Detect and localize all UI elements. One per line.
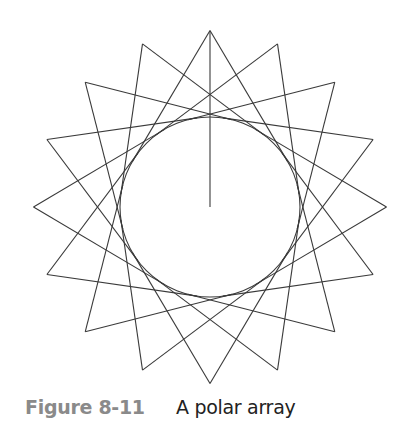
star-point-edge	[121, 44, 143, 194]
star-point-edge	[47, 118, 197, 140]
polar-array-diagram	[0, 0, 414, 395]
star-point-edge	[297, 185, 335, 332]
star-point-edge	[282, 153, 373, 274]
figure-title: A polar array	[176, 396, 295, 418]
star-point-edge	[34, 130, 165, 207]
star-point-edge	[143, 44, 264, 135]
star-point-edge	[143, 279, 264, 370]
star-point-edge	[256, 130, 387, 207]
star-point-edge	[47, 140, 138, 261]
star-point-edge	[47, 275, 197, 297]
figure-caption: Figure 8-11A polar array	[25, 396, 295, 421]
figure-number: Figure 8-11	[25, 396, 176, 418]
star-point-edge	[85, 82, 123, 229]
star-point-edge	[210, 253, 287, 384]
star-point-edge	[34, 207, 165, 284]
star-point-edge	[85, 294, 232, 332]
star-point-edge	[278, 220, 300, 370]
